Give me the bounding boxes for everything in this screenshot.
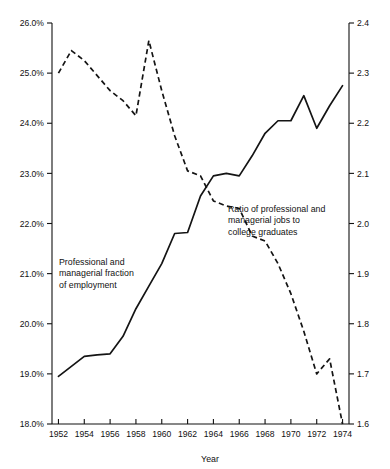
x-axis-tick-label: 1964 (204, 429, 223, 439)
right-axis-tick-label: 1.6 (357, 419, 369, 429)
chart-container: 18.0%19.0%20.0%21.0%22.0%23.0%24.0%25.0%… (0, 0, 390, 469)
x-axis-tick-label: 1968 (256, 429, 275, 439)
chart-background (0, 0, 390, 469)
right-axis-tick-label: 2.4 (357, 18, 369, 28)
x-axis-tick-label: 1970 (281, 429, 300, 439)
right-axis-tick-label: 2.3 (357, 68, 369, 78)
x-axis-tick-label: 1960 (152, 429, 171, 439)
left-axis-tick-label: 20.0% (20, 319, 45, 329)
left-axis-tick-label: 18.0% (20, 419, 45, 429)
line-chart: 18.0%19.0%20.0%21.0%22.0%23.0%24.0%25.0%… (0, 0, 390, 469)
x-axis-tick-label: 1962 (178, 429, 197, 439)
left-axis-tick-label: 23.0% (20, 169, 45, 179)
right-axis-tick-label: 2.1 (357, 169, 369, 179)
x-axis-tick-label: 1954 (75, 429, 94, 439)
x-axis-tick-label: 1956 (101, 429, 120, 439)
x-axis-tick-label: 1974 (333, 429, 352, 439)
left-axis-tick-label: 24.0% (20, 118, 45, 128)
left-axis-tick-label: 22.0% (20, 219, 45, 229)
right-axis-tick-label: 1.9 (357, 269, 369, 279)
right-axis-tick-label: 1.8 (357, 319, 369, 329)
left-axis-tick-label: 21.0% (20, 269, 45, 279)
right-axis-tick-label: 2.0 (357, 219, 369, 229)
x-axis-tick-label: 1958 (126, 429, 145, 439)
x-axis-tick-label: 1966 (230, 429, 249, 439)
x-axis-title: Year (201, 454, 219, 464)
right-axis-tick-label: 1.7 (357, 369, 369, 379)
left-axis-tick-label: 26.0% (20, 18, 45, 28)
x-axis-tick-label: 1952 (49, 429, 68, 439)
left-axis-tick-label: 19.0% (20, 369, 45, 379)
x-axis-tick-label: 1972 (307, 429, 326, 439)
left-axis-tick-label: 25.0% (20, 68, 45, 78)
right-axis-tick-label: 2.2 (357, 118, 369, 128)
